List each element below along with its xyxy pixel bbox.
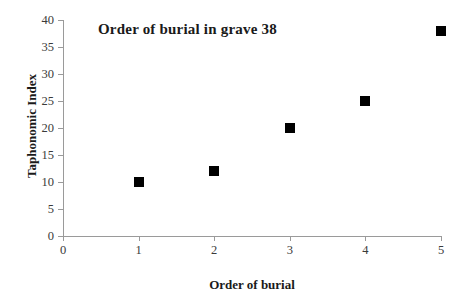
scatter-chart-figure: Order of burial in grave 38 Taphonomic I…: [0, 0, 469, 307]
y-tick-label: 5: [18, 202, 54, 216]
y-tick-label: 25: [18, 94, 54, 108]
y-tick-label-text: 15: [18, 148, 54, 163]
y-tick-label-text: 35: [18, 40, 54, 55]
x-tick: [441, 236, 442, 241]
plot-area: [63, 20, 441, 237]
x-tick-label: 3: [275, 243, 305, 258]
x-axis-title: Order of burial: [63, 277, 441, 293]
x-tick-label: 2: [199, 243, 229, 258]
y-tick-label-text: 25: [18, 94, 54, 109]
y-tick-label: 10: [18, 175, 54, 189]
y-tick-label: 35: [18, 40, 54, 54]
y-tick-label-text: 0: [18, 229, 54, 244]
y-tick-label: 15: [18, 148, 54, 162]
data-point-marker: [134, 177, 144, 187]
data-point-marker: [436, 26, 446, 36]
y-tick-label-text: 5: [18, 202, 54, 217]
y-tick-label-text: 10: [18, 175, 54, 190]
y-tick-label-text: 40: [18, 13, 54, 28]
y-tick-label-text: 20: [18, 121, 54, 136]
data-point-marker: [285, 123, 295, 133]
y-tick-label: 40: [18, 13, 54, 27]
data-point-marker: [360, 96, 370, 106]
data-point-marker: [209, 166, 219, 176]
x-tick-label: 5: [426, 243, 456, 258]
y-tick-label: 30: [18, 67, 54, 81]
y-tick-label: 20: [18, 121, 54, 135]
x-tick-label: 1: [124, 243, 154, 258]
x-tick-label: 4: [350, 243, 380, 258]
y-tick-label-text: 30: [18, 67, 54, 82]
y-tick-label: 0: [18, 229, 54, 243]
x-tick-label: 0: [48, 243, 78, 258]
